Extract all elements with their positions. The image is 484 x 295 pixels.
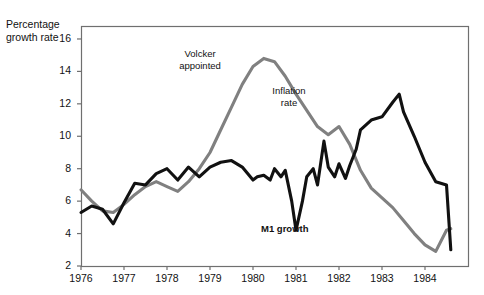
annotation-m1-growth: M1 growth: [261, 223, 341, 235]
annotation-m1-line1: M1 growth: [261, 223, 341, 235]
annotation-inflation-rate: Inflation rate: [258, 85, 320, 108]
annotation-inflation-line1: Inflation: [258, 85, 320, 97]
axis-tick-marks: [77, 39, 425, 270]
annotation-volcker-line1: Volcker: [156, 48, 244, 60]
plot-canvas: [0, 0, 484, 295]
chart-figure: Percentage growth rate 246810121416 1976…: [0, 0, 484, 295]
annotation-inflation-line2: rate: [258, 97, 320, 109]
annotation-volcker-appointed: Volcker appointed: [156, 48, 244, 71]
annotation-volcker-line2: appointed: [156, 60, 244, 72]
